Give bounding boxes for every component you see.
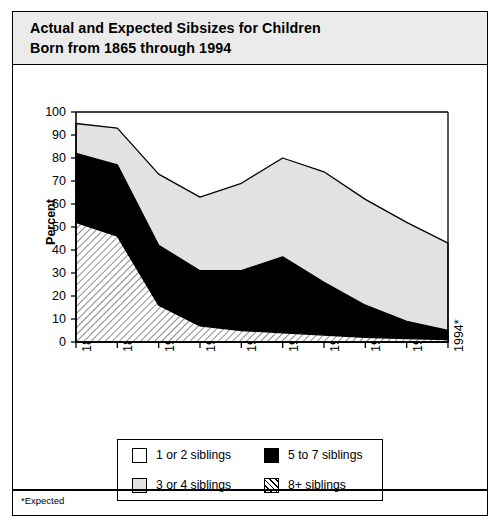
legend-label: 1 or 2 siblings [156,448,231,462]
legend-label: 5 to 7 siblings [288,448,363,462]
area-chart-svg [13,65,477,425]
legend-swatch-black [264,448,279,463]
legend-swatch-white [132,448,147,463]
chart-title: Actual and Expected Sibsizes for Childre… [30,18,321,58]
series-layer [76,124,448,343]
legend-item: 5 to 7 siblings [250,448,382,463]
footnote: *Expected [21,495,64,506]
footnote-divider [13,489,487,491]
title-band: Actual and Expected Sibsizes for Childre… [13,12,487,65]
legend-item: 1 or 2 siblings [118,448,250,463]
figure-frame: Actual and Expected Sibsizes for Childre… [12,11,488,516]
legend: 1 or 2 siblings5 to 7 siblings3 or 4 sib… [117,439,383,501]
plot-area: Percent Year of Child's Birth 0102030405… [13,65,487,425]
legend-grid: 1 or 2 siblings5 to 7 siblings3 or 4 sib… [118,440,382,500]
